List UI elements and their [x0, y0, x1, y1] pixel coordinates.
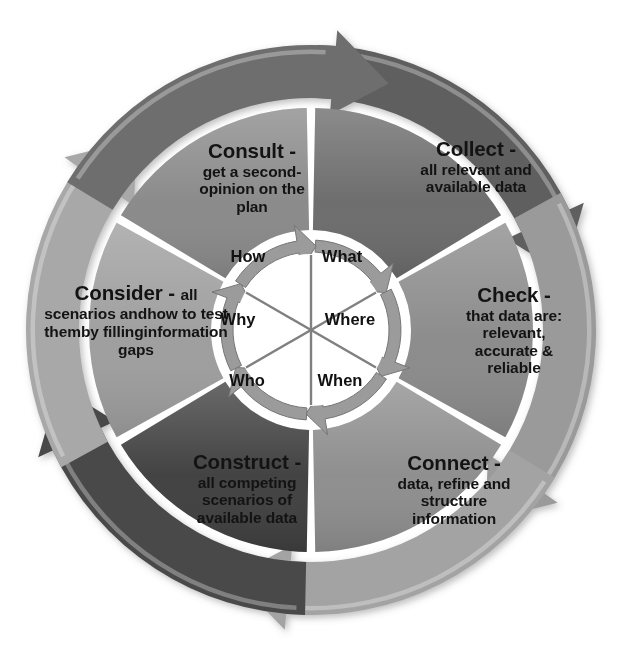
cycle-wheel-graphic	[0, 0, 628, 664]
diagram-canvas: Collect -all relevant andavailable dataC…	[0, 0, 628, 664]
